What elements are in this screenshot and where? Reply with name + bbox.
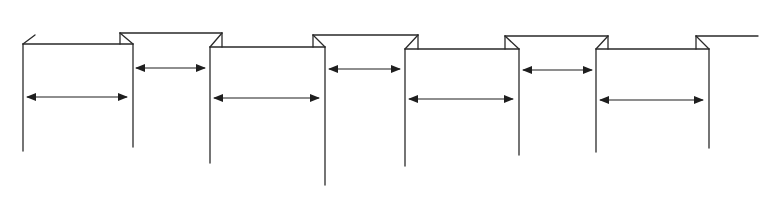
gap-2-right-chamfer [405, 35, 418, 49]
panel-diagram [0, 0, 761, 197]
gap-3-right-chamfer [596, 36, 608, 49]
outline-lines [23, 33, 758, 185]
gap-3-left-chamfer [505, 36, 519, 49]
left-stub-line [23, 35, 35, 44]
right-tail-chamfer [696, 36, 709, 49]
dimension-arrows [27, 68, 703, 100]
gap-2-left-chamfer [313, 35, 325, 47]
gap-1-left-chamfer [120, 33, 133, 44]
gap-1-right-chamfer [210, 33, 222, 47]
